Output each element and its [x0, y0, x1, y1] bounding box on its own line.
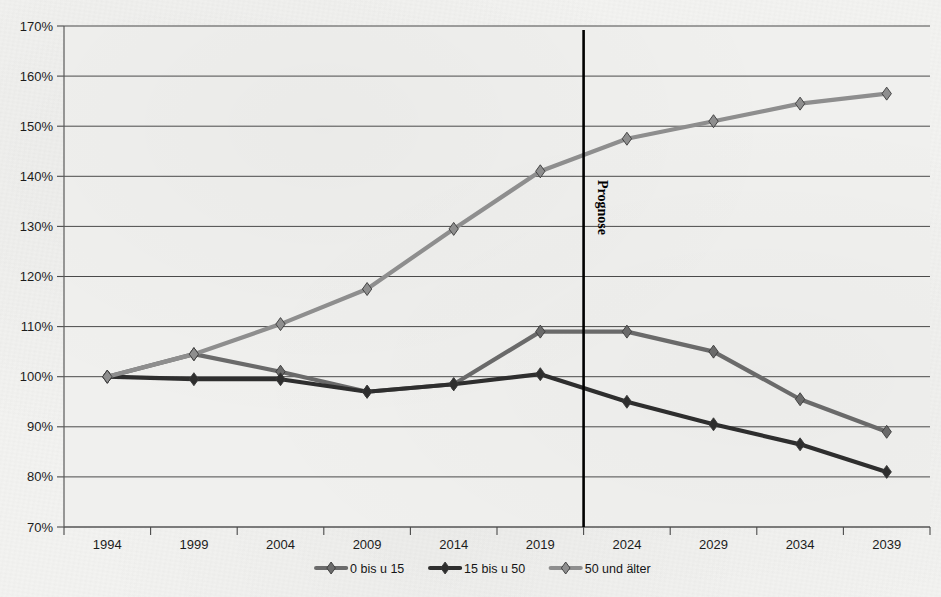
- data-point-marker: [276, 373, 285, 386]
- data-point-marker: [362, 385, 371, 398]
- data-point-marker: [622, 395, 631, 408]
- x-tick-label: 2034: [786, 537, 815, 552]
- x-tick-label: 1994: [93, 537, 122, 552]
- data-point-marker: [795, 438, 804, 451]
- series-3: [103, 87, 892, 383]
- data-series: [103, 87, 892, 478]
- x-tick-label: 2019: [526, 537, 555, 552]
- data-point-marker: [189, 348, 198, 361]
- y-axis-labels: 170%160%150%140%130%120%110%100%90%80%70…: [20, 19, 54, 535]
- data-point-marker: [795, 393, 804, 406]
- series-line: [107, 374, 886, 472]
- chart-legend: 0 bis u 1515 bis u 5050 und älter: [316, 562, 651, 576]
- y-tick-label: 130%: [20, 219, 54, 234]
- legend-item-label: 0 bis u 15: [350, 562, 404, 576]
- x-tick-label: 2029: [699, 537, 728, 552]
- x-tick-label: 2004: [266, 537, 295, 552]
- series-line: [107, 94, 886, 377]
- forecast-annotation: Prognose: [584, 30, 610, 527]
- y-tick-label: 170%: [20, 19, 54, 34]
- legend-swatch-marker: [327, 562, 336, 574]
- legend-swatch-marker: [441, 562, 450, 574]
- x-axis-labels: 1994199920042009201420192024202920342039: [93, 537, 901, 552]
- chart-container: 170%160%150%140%130%120%110%100%90%80%70…: [0, 0, 941, 597]
- series-1: [103, 325, 892, 438]
- x-tick-label: 2009: [353, 537, 382, 552]
- series-line: [107, 332, 886, 432]
- y-tick-label: 110%: [21, 319, 54, 334]
- x-axis-ticks: [64, 527, 930, 535]
- data-point-marker: [795, 97, 804, 110]
- y-tick-label: 150%: [20, 119, 54, 134]
- x-tick-label: 2014: [439, 537, 468, 552]
- legend-item[interactable]: 0 bis u 15: [316, 562, 404, 576]
- y-axis-ticks: [57, 26, 64, 527]
- data-point-marker: [622, 132, 631, 145]
- x-tick-label: 1999: [179, 537, 208, 552]
- y-tick-label: 140%: [20, 169, 54, 184]
- data-point-marker: [536, 368, 545, 381]
- data-point-marker: [189, 373, 198, 386]
- data-point-marker: [103, 370, 112, 383]
- y-tick-label: 80%: [27, 469, 53, 484]
- data-point-marker: [882, 87, 891, 100]
- x-tick-label: 2024: [612, 537, 641, 552]
- legend-swatch-marker: [561, 562, 570, 574]
- y-tick-label: 120%: [20, 269, 54, 284]
- y-tick-label: 100%: [20, 369, 54, 384]
- legend-item[interactable]: 50 und älter: [551, 562, 651, 576]
- y-tick-label: 160%: [20, 69, 54, 84]
- legend-item-label: 15 bis u 50: [464, 562, 525, 576]
- forecast-label: Prognose: [595, 180, 610, 235]
- line-chart: 170%160%150%140%130%120%110%100%90%80%70…: [0, 0, 941, 597]
- data-point-marker: [449, 378, 458, 391]
- data-point-marker: [709, 345, 718, 358]
- data-point-marker: [276, 318, 285, 331]
- x-tick-label: 2039: [872, 537, 901, 552]
- data-point-marker: [709, 418, 718, 431]
- y-tick-label: 70%: [27, 520, 53, 535]
- y-tick-label: 90%: [27, 419, 53, 434]
- legend-item-label: 50 und älter: [585, 562, 651, 576]
- legend-item[interactable]: 15 bis u 50: [430, 562, 525, 576]
